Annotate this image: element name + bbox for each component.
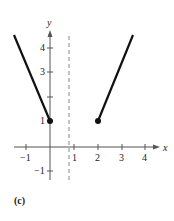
- left-branch-endpoint: [47, 118, 53, 124]
- y-tick-label: 1: [40, 115, 45, 126]
- y-axis-label: y: [46, 17, 52, 28]
- figure-caption: (c): [14, 195, 25, 207]
- x-axis-arrow-icon: [153, 145, 160, 150]
- x-tick-label: 4: [142, 152, 147, 163]
- x-tick-label: −1: [20, 152, 31, 163]
- y-axis-arrow-icon: [48, 30, 53, 37]
- y-tick-label: 3: [40, 66, 45, 77]
- x-tick-label: 2: [95, 152, 100, 163]
- right-branch-line: [98, 35, 133, 121]
- y-tick-label: −1: [34, 165, 45, 176]
- graph: y x −1 1 2 3 4 −1 1 3 4 (c): [0, 0, 174, 221]
- y-tick-label: 4: [40, 42, 45, 53]
- x-tick-label: 3: [119, 152, 124, 163]
- right-branch-endpoint: [95, 118, 101, 124]
- x-tick-label: 1: [72, 152, 77, 163]
- x-axis-label: x: [162, 142, 168, 153]
